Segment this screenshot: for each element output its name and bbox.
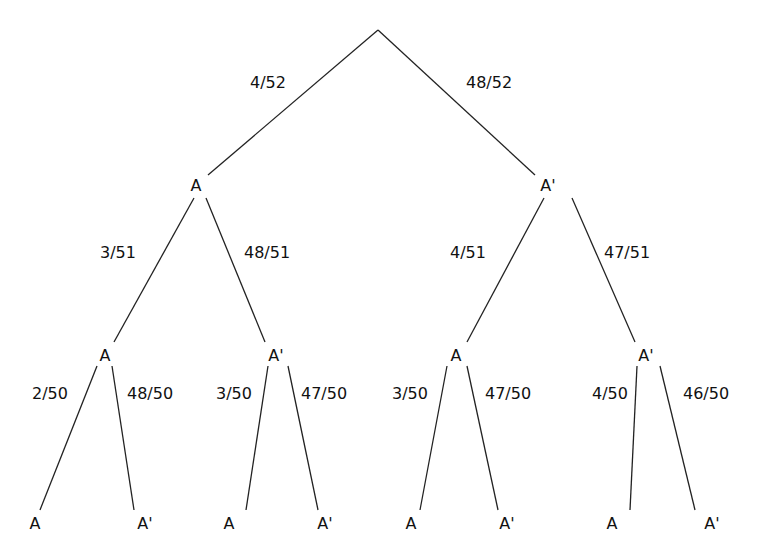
tree-node-label: A' xyxy=(540,177,555,195)
tree-branch xyxy=(114,198,194,342)
tree-branch xyxy=(630,366,637,510)
tree-node-label: A' xyxy=(317,515,332,533)
branch-probability: 4/52 xyxy=(250,74,286,92)
tree-node-label: A' xyxy=(704,515,719,533)
tree-branch xyxy=(378,30,535,175)
branch-probability: 47/50 xyxy=(485,385,531,403)
branch-probability: 2/50 xyxy=(32,385,68,403)
tree-branch xyxy=(208,30,378,175)
tree-node-label: A' xyxy=(499,515,514,533)
branch-probability: 48/52 xyxy=(466,74,512,92)
tree-node-label: A xyxy=(191,177,202,195)
branch-probability: 3/50 xyxy=(392,385,428,403)
branch-probability: 47/51 xyxy=(604,244,650,262)
branch-probability: 48/51 xyxy=(244,244,290,262)
tree-branch xyxy=(467,198,544,342)
tree-node-label: A xyxy=(224,515,235,533)
branch-probability: 46/50 xyxy=(683,385,729,403)
tree-node-label: A' xyxy=(638,347,653,365)
tree-branch xyxy=(572,198,635,342)
tree-edges xyxy=(0,0,759,559)
tree-node-label: A xyxy=(406,515,417,533)
tree-node-label: A xyxy=(30,515,41,533)
branch-probability: 3/50 xyxy=(216,385,252,403)
branch-probability: 48/50 xyxy=(127,385,173,403)
tree-node-label: A xyxy=(100,347,111,365)
tree-node-label: A xyxy=(607,515,618,533)
branch-probability: 4/50 xyxy=(592,385,628,403)
tree-node-label: A xyxy=(451,347,462,365)
tree-branch xyxy=(206,198,265,342)
tree-node-label: A' xyxy=(137,515,152,533)
branch-probability: 3/51 xyxy=(100,244,136,262)
branch-probability: 4/51 xyxy=(450,244,486,262)
tree-node-label: A' xyxy=(268,347,283,365)
branch-probability: 47/50 xyxy=(301,385,347,403)
